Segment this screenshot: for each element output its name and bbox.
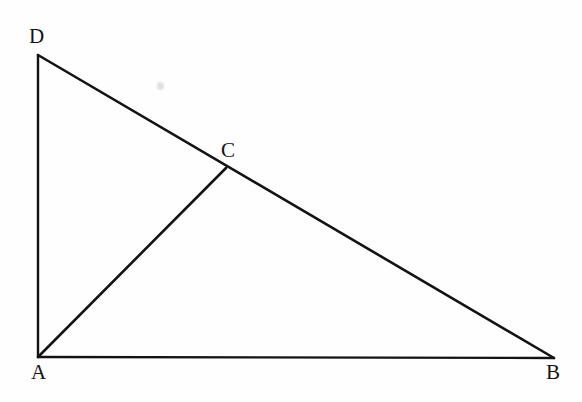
segment-group <box>38 55 554 358</box>
geometry-figure: D C A B <box>0 0 582 402</box>
segment-DB <box>38 55 554 358</box>
figure-svg <box>0 0 582 402</box>
vertex-label-A: A <box>31 362 46 383</box>
vertex-label-D: D <box>29 26 44 47</box>
vertex-label-C: C <box>221 140 235 161</box>
segment-AC <box>38 168 226 357</box>
segment-AB <box>38 357 554 358</box>
scan-smudge-artifact <box>157 82 164 90</box>
vertex-label-B: B <box>546 362 560 383</box>
